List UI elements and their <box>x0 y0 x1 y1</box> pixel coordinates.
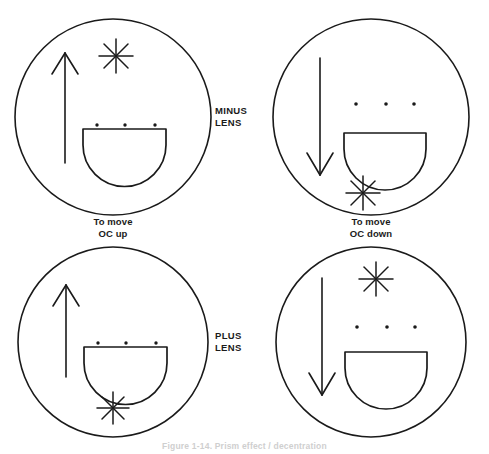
arrow-up-icon <box>52 53 78 163</box>
segment-reference-dots <box>95 123 156 126</box>
lens-outline-circle <box>276 247 466 437</box>
star-marker-icon <box>99 39 133 73</box>
bifocal-segment-shape <box>83 129 166 186</box>
arrow-down-icon <box>309 278 335 395</box>
bifocal-segment-shape <box>344 133 426 190</box>
caption-top-left: To move OC up <box>48 216 178 239</box>
lens-diagram-bottom-left <box>18 247 208 437</box>
segment-reference-dots <box>96 341 157 344</box>
lens-diagram-bottom-right <box>276 247 466 437</box>
star-marker-icon <box>359 262 393 296</box>
lens-diagram-top-left <box>15 19 211 215</box>
caption-top-right: To move OC down <box>306 216 436 239</box>
bifocal-segment-shape <box>345 352 427 409</box>
star-marker-icon <box>346 176 380 210</box>
bifocal-segment-shape <box>84 347 167 404</box>
figure-page: To move OC up To move OC down MINUS LENS… <box>0 0 489 454</box>
segment-reference-dots <box>355 325 417 329</box>
figure-caption: Figure 1-14. Prism effect / decentration <box>0 441 489 451</box>
row-label-minus-lens: MINUS LENS <box>215 105 275 129</box>
arrow-down-icon <box>307 58 333 175</box>
row-label-plus-lens: PLUS LENS <box>215 330 275 354</box>
lens-diagram-top-right <box>273 19 469 215</box>
segment-reference-dots <box>354 102 416 106</box>
arrow-up-icon <box>53 285 79 377</box>
star-marker-icon <box>97 392 129 424</box>
